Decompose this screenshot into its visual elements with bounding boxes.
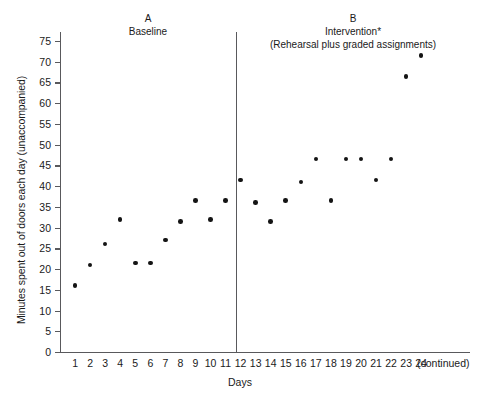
y-axis-line xyxy=(60,32,61,353)
y-tick-label: 30 xyxy=(17,223,51,234)
data-point xyxy=(223,198,228,203)
phase-b-sublabel: (Rehearsal plus graded assignments) xyxy=(270,39,436,50)
y-tick-mark xyxy=(55,269,60,270)
x-axis-title: Days xyxy=(60,376,420,388)
data-point xyxy=(253,200,258,205)
data-point xyxy=(344,157,349,162)
y-tick-label: 35 xyxy=(17,202,51,213)
y-tick-label: 65 xyxy=(17,77,51,88)
data-point xyxy=(118,217,123,222)
data-point xyxy=(419,53,424,58)
y-tick-mark xyxy=(55,248,60,249)
data-point xyxy=(103,242,108,247)
y-tick-label: 0 xyxy=(17,347,51,358)
data-point xyxy=(73,283,78,288)
phase-b-label: Intervention* xyxy=(325,26,381,37)
data-point xyxy=(359,157,364,162)
data-point xyxy=(133,261,138,266)
y-tick-label: 55 xyxy=(17,119,51,130)
phase-divider-line xyxy=(236,32,237,353)
y-tick-mark xyxy=(55,352,60,353)
data-point xyxy=(163,238,168,243)
data-point xyxy=(208,217,213,222)
y-tick-mark xyxy=(55,145,60,146)
y-tick-label: 40 xyxy=(17,181,51,192)
y-tick-label: 60 xyxy=(17,98,51,109)
y-tick-label: 20 xyxy=(17,264,51,275)
phase-a-letter: A xyxy=(60,12,236,25)
data-point xyxy=(238,178,243,183)
data-point xyxy=(193,198,198,203)
single-case-design-scatter-chart: A Baseline B Intervention* (Rehearsal pl… xyxy=(0,0,486,405)
y-tick-label: 15 xyxy=(17,285,51,296)
data-point xyxy=(389,157,394,162)
y-tick-mark xyxy=(55,290,60,291)
y-tick-label: 10 xyxy=(17,306,51,317)
phase-a-header: A Baseline xyxy=(60,12,236,38)
data-point xyxy=(268,219,273,224)
y-tick-label: 70 xyxy=(17,57,51,68)
y-tick-mark xyxy=(55,331,60,332)
phase-a-label: Baseline xyxy=(129,26,167,37)
y-tick-label: 75 xyxy=(17,36,51,47)
y-tick-mark xyxy=(55,62,60,63)
y-tick-label: 45 xyxy=(17,160,51,171)
data-point xyxy=(404,74,409,79)
data-point xyxy=(283,198,288,203)
data-point xyxy=(88,263,93,268)
y-tick-mark xyxy=(55,103,60,104)
phase-b-letter: B xyxy=(236,12,470,25)
data-point xyxy=(178,219,183,224)
y-tick-label: 25 xyxy=(17,243,51,254)
x-axis-continued-note: (continued) xyxy=(417,358,470,369)
y-tick-mark xyxy=(55,165,60,166)
y-tick-mark xyxy=(55,82,60,83)
data-point xyxy=(148,261,153,266)
x-axis-line xyxy=(60,352,470,353)
y-tick-label: 5 xyxy=(17,326,51,337)
data-point xyxy=(314,157,319,162)
y-tick-mark xyxy=(55,311,60,312)
data-point xyxy=(329,198,334,203)
data-point xyxy=(374,178,379,183)
y-tick-mark xyxy=(55,41,60,42)
phase-b-header: B Intervention* (Rehearsal plus graded a… xyxy=(236,12,470,51)
y-tick-label: 50 xyxy=(17,140,51,151)
y-tick-mark xyxy=(55,228,60,229)
y-tick-mark xyxy=(55,124,60,125)
y-tick-mark xyxy=(55,186,60,187)
y-tick-mark xyxy=(55,207,60,208)
data-point xyxy=(299,180,304,185)
